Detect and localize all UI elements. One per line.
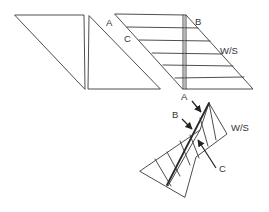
label-top-ws: W/S [220,45,238,56]
label-bottom-c: C [219,163,226,174]
folded-view [140,103,227,197]
folding-diagram: A C B W/S A B W/S C [0,0,269,212]
label-bottom-b: B [172,109,178,120]
label-top-b: B [195,16,201,27]
label-top-c: C [124,33,131,44]
arrow-b [182,119,192,129]
left-triangle-panel [15,15,85,89]
arrow-a [192,101,201,112]
label-bottom-ws: W/S [231,122,249,133]
label-mid-a: A [181,91,188,102]
label-top-a: A [106,17,113,28]
